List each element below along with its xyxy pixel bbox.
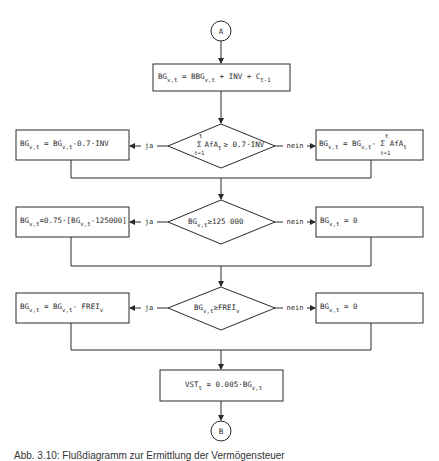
svg-text:nein: nein	[287, 218, 304, 226]
row3-left-formula: BGv,t = BGv,t- FREIv	[20, 302, 104, 313]
init-formula: BGv,t = BBGv,t + INV + Ct-1	[158, 72, 271, 83]
row3-right-formula: BGv,t = 0	[320, 302, 358, 313]
svg-text:ja: ja	[145, 304, 153, 312]
connector-b-label: B	[219, 427, 224, 436]
decision-1-formula: ΣAfAt≥ 0.7·INV	[197, 140, 265, 151]
svg-text:τ=1: τ=1	[194, 150, 205, 156]
svg-text:ja: ja	[145, 142, 153, 150]
row1-left-formula: BGv,t = BGv,t-0.7·INV	[20, 139, 109, 150]
svg-text:t: t	[199, 133, 203, 139]
row2-right-formula: BGv,t = 0	[320, 216, 358, 227]
row2-left-formula: BGv,t=0.75·[BGv,t-125000]	[20, 216, 127, 227]
svg-text:nein: nein	[287, 304, 304, 312]
final-formula: VSTt = 0.005·BGv,t	[185, 380, 262, 391]
svg-text:τ=1: τ=1	[380, 150, 391, 156]
svg-text:ja: ja	[145, 218, 153, 226]
row1-right-formula: BGv,t = BGv,t- Σ AfAt	[319, 139, 407, 150]
decision-3-formula: BGv,t≥FREIv	[194, 303, 240, 314]
decision-2-formula: BGv,t≥125 000	[188, 217, 244, 228]
svg-text:nein: nein	[287, 142, 304, 150]
connector-a-label: A	[219, 27, 224, 36]
figure-caption: Abb. 3.10: Flußdiagramm zur Ermittlung d…	[14, 450, 285, 461]
